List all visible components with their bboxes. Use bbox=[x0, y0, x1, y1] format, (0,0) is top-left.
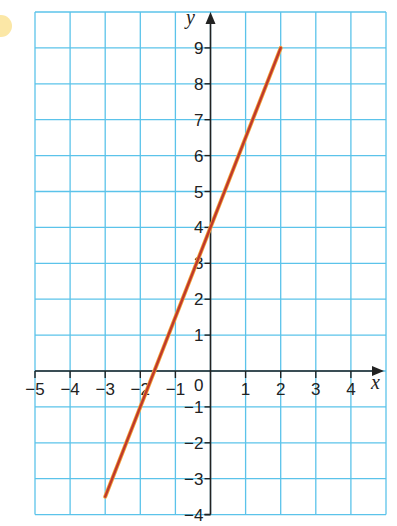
y-tick-label: 5 bbox=[194, 183, 203, 202]
x-tick-label: −3 bbox=[96, 380, 115, 399]
plotted-line bbox=[105, 48, 281, 497]
y-tick-label: 9 bbox=[194, 39, 203, 58]
y-tick-label: −3 bbox=[184, 470, 203, 489]
y-tick-label: 7 bbox=[194, 111, 203, 130]
y-tick-label: −2 bbox=[184, 434, 203, 453]
y-tick-label: −1 bbox=[184, 398, 203, 417]
origin-label: 0 bbox=[194, 376, 203, 395]
coordinate-graph: −5−4−3−2−11234−4−3−2−1123456789 x y 0 bbox=[0, 0, 397, 526]
x-tick-label: 3 bbox=[311, 380, 320, 399]
y-axis-arrow-icon bbox=[206, 12, 216, 24]
y-tick-label: 4 bbox=[194, 218, 203, 237]
y-tick-label: 8 bbox=[194, 75, 203, 94]
line-series bbox=[105, 48, 281, 497]
x-tick-label: −4 bbox=[60, 380, 79, 399]
y-tick-label: 1 bbox=[194, 326, 203, 345]
x-tick-label: 2 bbox=[276, 380, 285, 399]
x-tick-label: −5 bbox=[25, 380, 44, 399]
x-axis-label: x bbox=[370, 371, 380, 393]
y-tick-label: 6 bbox=[194, 147, 203, 166]
x-tick-label: 1 bbox=[241, 380, 250, 399]
x-tick-label: −1 bbox=[166, 380, 185, 399]
y-axis-label: y bbox=[184, 6, 195, 29]
y-tick-label: −4 bbox=[184, 506, 203, 525]
x-tick-label: 4 bbox=[346, 380, 355, 399]
y-tick-label: 2 bbox=[194, 290, 203, 309]
